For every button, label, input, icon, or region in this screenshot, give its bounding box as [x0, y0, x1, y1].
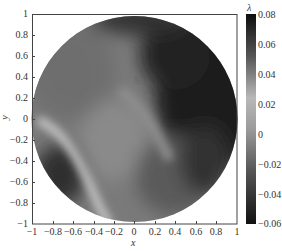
- colorbar: [246, 14, 256, 224]
- y-tick-label: −0.2: [0, 135, 28, 145]
- y-tick-label: 0.4: [0, 72, 28, 82]
- heatmap-field: [25, 5, 265, 226]
- figure: 1 0.8 0.6 0.4 0.2 0 −0.2 −0.4 −0.6 −0.8 …: [0, 0, 282, 251]
- x-axis-label: x: [131, 237, 135, 248]
- y-tick-label: 0.6: [0, 51, 28, 61]
- y-tick-label: −0.6: [0, 177, 28, 187]
- y-axis-label: y: [0, 115, 10, 119]
- colorbar-tick-label: −0.04: [258, 190, 281, 200]
- y-tick-label: 1: [0, 9, 28, 19]
- colorbar-tick-label: 0: [258, 130, 263, 140]
- y-tick-label: −0.8: [0, 198, 28, 208]
- colorbar-tick-label: −0.02: [258, 160, 281, 170]
- y-tick-label: −0.4: [0, 156, 28, 166]
- colorbar-tick-label: 0.04: [258, 70, 276, 80]
- colorbar-tick-label: 0.06: [258, 40, 276, 50]
- x-tick-label: 1: [225, 227, 249, 237]
- y-tick-label: 0.2: [0, 93, 28, 103]
- colorbar-tick-label: −0.06: [258, 219, 281, 229]
- colorbar-tick-label: 0.02: [258, 100, 276, 110]
- colorbar-tick-label: 0.08: [258, 10, 276, 20]
- colorbar-label: λ: [247, 2, 251, 13]
- heatmap-plot: [0, 0, 282, 251]
- y-tick-label: 0.8: [0, 30, 28, 40]
